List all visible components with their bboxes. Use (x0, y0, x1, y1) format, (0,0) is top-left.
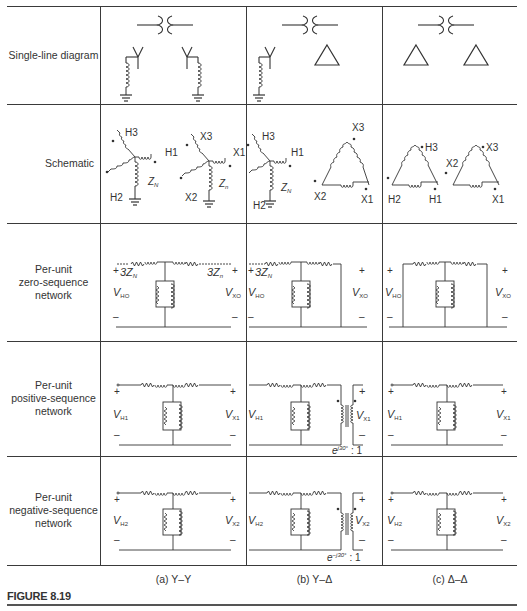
negative-sequence-network-ydelta: + VH2 VX2 – e−j30°: 1 (247, 457, 382, 565)
row-label-text: negative-sequence (9, 504, 98, 517)
svg-text:+: + (388, 386, 394, 397)
terminal-label: X1 (233, 147, 246, 158)
svg-text:+: + (501, 494, 507, 505)
svg-text:+: + (359, 493, 365, 505)
transformer-icon (137, 16, 193, 34)
positive-sequence-network-ydelta: + VH1 VX1 – ej30°: 1 (247, 342, 382, 456)
svg-text:VXO: VXO (225, 286, 241, 299)
terminal-label: H3 (262, 131, 275, 142)
zero-seq-cell-c: + + VHO VXO – – (383, 224, 517, 341)
svg-text:VX1: VX1 (225, 408, 240, 421)
svg-text:–: – (387, 311, 393, 322)
negative-sequence-network-yy: + + VH2 VX2 – – (101, 457, 246, 565)
terminal-label: H3 (425, 142, 438, 153)
svg-text:–: – (388, 429, 394, 440)
zero-sequence-network-yy: + 3ZN 3Zn + VHO VXO – – (101, 224, 246, 341)
svg-text:ZN: ZN (147, 176, 159, 188)
neg-seq-cell-a: + + VH2 VX2 – – (101, 457, 246, 565)
svg-text:VHO: VHO (385, 286, 402, 299)
svg-text:VH1: VH1 (248, 408, 264, 421)
svg-text:+: + (388, 494, 394, 505)
svg-text:+: + (248, 265, 254, 276)
zero-seq-cell-a: + 3ZN 3Zn + VHO VXO – – (101, 224, 246, 341)
svg-text:–: – (230, 429, 236, 440)
row-label-schematic: Schematic (7, 104, 100, 223)
svg-text:+: + (113, 265, 119, 276)
column-caption-a: (a) Y–Y (101, 573, 246, 585)
polarity-dot (354, 508, 357, 511)
ground-icon (192, 95, 204, 101)
terminal-label: H2 (110, 192, 123, 203)
svg-text:–: – (502, 311, 508, 322)
svg-text:–: – (114, 429, 120, 440)
svg-text:VH2: VH2 (248, 514, 264, 527)
ground-icon (120, 95, 132, 101)
row-label-text: positive-sequence (11, 392, 96, 405)
transformer-icon (282, 16, 338, 34)
terminal-label: X2 (185, 192, 198, 203)
svg-text:–: – (388, 534, 394, 545)
polarity-dot (337, 508, 340, 511)
pos-seq-cell-b: + VH1 VX1 – ej30°: 1 (247, 342, 382, 456)
svg-text:VX2: VX2 (355, 514, 370, 527)
svg-text:+: + (387, 265, 393, 276)
wye-grounded-icon (182, 47, 198, 69)
svg-text:+: + (502, 265, 508, 276)
single-line-cell-a (101, 7, 246, 104)
terminal-label: X1 (361, 194, 374, 205)
delta-icon (315, 45, 339, 65)
single-line-cell-b (247, 7, 382, 104)
row-label-text: network (11, 405, 96, 418)
svg-text:ZN: ZN (280, 182, 292, 194)
svg-text:3ZN: 3ZN (255, 266, 273, 279)
zero-sequence-network-deltadelta: + + VHO VXO – – (383, 224, 517, 341)
positive-sequence-network-deltadelta: + + VH1 VX1 – – (383, 342, 517, 456)
terminal-label: H1 (291, 147, 304, 158)
schematic-cell-a: H3 H1 H2 ZN X3 X1 X2 Zn (101, 105, 246, 223)
row-label-text: network (19, 289, 88, 302)
ground-icon (203, 201, 215, 207)
svg-text:–: – (501, 534, 507, 545)
ground-icon (253, 95, 265, 101)
svg-text:+: + (114, 386, 120, 397)
table-bottom-rule (7, 565, 517, 566)
svg-text:+: + (359, 385, 365, 397)
row-label-text: Schematic (45, 157, 94, 170)
svg-text:VX1: VX1 (496, 408, 511, 421)
row-label-text: network (9, 517, 98, 530)
svg-text:3ZN: 3ZN (120, 266, 138, 279)
svg-text:VH1: VH1 (387, 408, 403, 421)
svg-text:VH2: VH2 (387, 514, 403, 527)
terminal-label: X3 (352, 122, 365, 133)
terminal-label: H1 (165, 147, 178, 158)
zero-sequence-network-ydelta: + 3ZN + VHO VXO – – (247, 224, 382, 341)
row-label-text: Per-unit (19, 263, 88, 276)
phase-shift-ratio: ej30°: 1 (332, 445, 363, 456)
pos-seq-cell-a: + + VH1 VX1 – – (101, 342, 246, 456)
svg-text:VHO: VHO (248, 286, 265, 299)
single-line-diagram-ydelta (247, 7, 382, 104)
row-label-pos-seq: Per-unit positive-sequence network (7, 341, 100, 456)
pos-seq-cell-c: + + VH1 VX1 – – (383, 342, 517, 456)
zero-seq-cell-b: + 3ZN + VHO VXO – – (247, 224, 382, 341)
column-caption-b: (b) Y–Δ (247, 573, 382, 585)
row-label-text: zero-sequence (19, 276, 88, 289)
terminal-label: X2 (446, 158, 459, 169)
polarity-dot (354, 400, 357, 403)
figure-bottom-rule (7, 604, 517, 606)
terminal-label: X3 (486, 142, 499, 153)
terminal-label: H3 (125, 127, 138, 138)
phase-shift-ratio: e−j30°: 1 (327, 552, 361, 563)
svg-text:VX2: VX2 (225, 514, 240, 527)
negative-sequence-network-deltadelta: + + VH2 VX2 – – (383, 457, 517, 565)
svg-text:+: + (232, 265, 238, 276)
delta-winding-x (322, 142, 369, 187)
svg-text:–: – (114, 534, 120, 545)
svg-text:–: – (113, 311, 119, 322)
terminal-label: X1 (492, 194, 505, 205)
terminal-label: H1 (429, 194, 442, 205)
svg-text:+: + (230, 494, 236, 505)
row-label-single-line: Single-line diagram (7, 6, 100, 104)
svg-text:–: – (501, 429, 507, 440)
schematic-cell-c: H3 H2 H1 X3 X2 X1 (383, 105, 517, 223)
